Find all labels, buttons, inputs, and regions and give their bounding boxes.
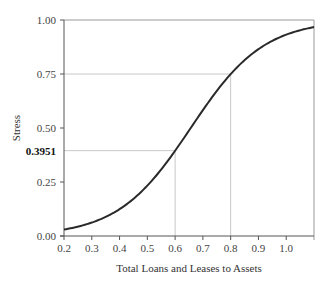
x-tick-label: 0.6 — [168, 242, 182, 254]
x-tick-label: 0.9 — [252, 242, 266, 254]
x-tick-label: 1.0 — [279, 242, 293, 254]
x-tick-label: 0.3 — [85, 242, 99, 254]
stress-curve — [64, 27, 314, 229]
x-tick-label: 0.8 — [224, 242, 238, 254]
x-tick-label: 0.5 — [140, 242, 154, 254]
x-tick-label: 0.4 — [113, 242, 127, 254]
stress-logistic-chart: 0.20.30.40.50.60.70.80.91.00.000.250.500… — [0, 0, 329, 281]
y-tick-label: 0.25 — [37, 176, 57, 188]
x-axis-title: Total Loans and Leases to Assets — [116, 262, 262, 274]
y-tick-label: 0.75 — [37, 68, 57, 80]
y-tick-label: 0.50 — [37, 122, 57, 134]
x-tick-label: 0.7 — [196, 242, 210, 254]
y-axis-title: Stress — [10, 115, 22, 141]
x-tick-label: 0.2 — [57, 242, 71, 254]
y-tick-label: 1.00 — [37, 14, 57, 26]
y-tick-label: 0.00 — [37, 230, 57, 242]
highlight-y-label: 0.3951 — [26, 145, 56, 157]
plot-area: 0.20.30.40.50.60.70.80.91.00.000.250.500… — [26, 14, 314, 254]
